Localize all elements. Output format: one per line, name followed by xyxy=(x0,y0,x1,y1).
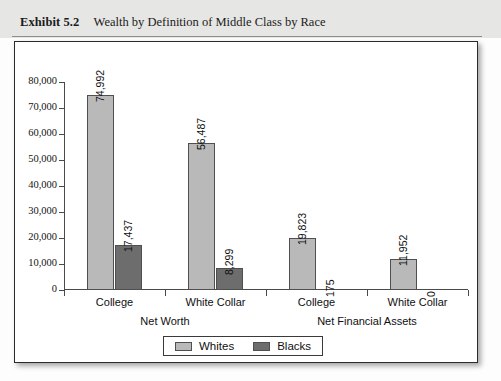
y-axis-tick-label: 40,000 xyxy=(15,179,57,190)
category-label: White Collar xyxy=(165,296,266,308)
group-label: Net Financial Assets xyxy=(266,315,468,327)
exhibit-title: Exhibit 5.2 Wealth by Definition of Midd… xyxy=(20,15,326,30)
bar-value-label: 8,299 xyxy=(223,249,235,275)
bar-value-label: 11,952 xyxy=(397,235,409,266)
y-axis-tick-label: 20,000 xyxy=(15,231,57,242)
legend-label: Whites xyxy=(199,340,234,352)
y-axis-tick-label: 0 xyxy=(15,283,57,294)
y-axis-tick-label: 80,000 xyxy=(15,75,57,86)
chart-legend: WhitesBlacks xyxy=(163,336,323,356)
category-label: White Collar xyxy=(367,296,468,308)
bar-value-label: 74,992 xyxy=(94,70,106,102)
bar-value-label: 17,437 xyxy=(122,220,134,252)
page-background: Exhibit 5.2 Wealth by Definition of Midd… xyxy=(0,0,501,381)
axis-separator-tick xyxy=(468,290,469,296)
group-label: Net Worth xyxy=(64,315,266,327)
bar-whites-2 xyxy=(289,238,316,290)
legend-item: Blacks xyxy=(253,340,311,352)
bar-chart-plot: 010,00020,00030,00040,00050,00060,00070,… xyxy=(15,42,479,364)
y-axis-tick-label: 10,000 xyxy=(15,257,57,268)
legend-swatch-whites xyxy=(175,342,192,351)
category-label: College xyxy=(64,296,165,308)
y-axis-tick-label: 70,000 xyxy=(15,101,57,112)
legend-item: Whites xyxy=(175,340,234,352)
header-divider xyxy=(12,36,482,37)
y-axis-tick-label: 30,000 xyxy=(15,205,57,216)
bar-value-label: 56,487 xyxy=(195,118,207,150)
category-label: College xyxy=(266,296,367,308)
y-axis-tick-label: 60,000 xyxy=(15,127,57,138)
legend-label: Blacks xyxy=(277,340,311,352)
exhibit-caption: Wealth by Definition of Middle Class by … xyxy=(94,15,326,29)
bar-whites-1 xyxy=(188,143,215,290)
y-axis-tick-label: 50,000 xyxy=(15,153,57,164)
bar-value-label: 175 xyxy=(324,279,336,297)
legend-swatch-blacks xyxy=(253,342,270,351)
bar-value-label: 19,823 xyxy=(296,213,308,245)
bar-whites-0 xyxy=(87,95,114,290)
chart-frame: 010,00020,00030,00040,00050,00060,00070,… xyxy=(14,41,478,363)
exhibit-number: Exhibit 5.2 xyxy=(20,15,79,29)
